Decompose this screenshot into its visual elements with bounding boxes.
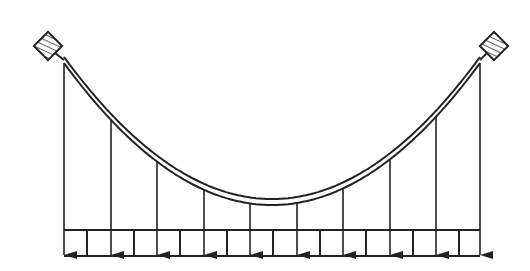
cable xyxy=(55,53,487,205)
suspension-cable-diagram xyxy=(0,0,530,271)
cable-lower-edge xyxy=(64,63,480,205)
hangers xyxy=(64,63,480,255)
cable-upper-edge xyxy=(64,57,480,199)
deck xyxy=(64,230,480,256)
